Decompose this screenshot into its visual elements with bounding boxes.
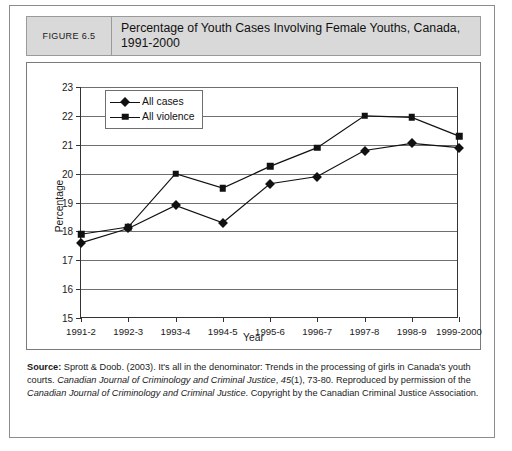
plot-area: 151617181920212223 1991-21992-31993-4199…	[80, 87, 458, 318]
data-point-marker	[220, 185, 227, 192]
y-tick-label: 16	[62, 284, 73, 295]
y-tick-label: 20	[62, 168, 73, 179]
legend-entry: All violence	[110, 109, 195, 124]
data-point-marker	[361, 113, 368, 120]
x-tick-label: 1997-8	[350, 326, 380, 337]
y-tick-label: 18	[62, 226, 73, 237]
figure-header: FIGURE 6.5 Percentage of Youth Cases Inv…	[26, 16, 481, 56]
x-tick-label: 1993-4	[161, 326, 191, 337]
y-tick-label: 22	[62, 110, 73, 121]
x-tick-label: 1999-2000	[436, 326, 482, 337]
x-tick-label: 1996-7	[302, 326, 332, 337]
data-point-marker	[456, 133, 463, 140]
series-line-0	[81, 143, 459, 243]
chart-legend: All casesAll violence	[105, 90, 203, 129]
figure-number-cell: FIGURE 6.5	[27, 17, 112, 55]
x-tick-label: 1994-5	[208, 326, 238, 337]
diamond-marker-icon	[120, 97, 130, 107]
legend-swatch	[110, 96, 140, 108]
figure-title: Percentage of Youth Cases Involving Fema…	[121, 21, 471, 52]
source-text-part3: (1), 73-80. Reproduced by permission of …	[291, 375, 471, 385]
legend-entry: All cases	[110, 94, 195, 109]
x-tick-label: 1998-9	[397, 326, 427, 337]
source-volume: 45	[281, 375, 291, 385]
source-text-part4: . Copyright by the Canadian Criminal Jus…	[246, 388, 479, 398]
legend-swatch	[110, 111, 140, 123]
source-journal-1: Canadian Journal of Criminology and Crim…	[57, 375, 276, 385]
series-line-1	[81, 116, 459, 234]
y-tick-label: 17	[62, 255, 73, 266]
data-point-marker	[267, 163, 274, 170]
source-note: Source: Sprott & Doob. (2003). It's all …	[27, 361, 485, 401]
legend-label: All violence	[142, 111, 195, 122]
data-point-marker	[314, 144, 321, 151]
y-tick-label: 15	[62, 313, 73, 324]
data-point-marker	[172, 170, 179, 177]
legend-label: All cases	[142, 96, 184, 107]
data-point-marker	[409, 114, 416, 121]
chart-container: Percentage Year 151617181920212223 1991-…	[26, 62, 481, 350]
source-journal-2: Canadian Journal of Criminology and Crim…	[27, 388, 246, 398]
x-tick-mark	[459, 317, 460, 322]
data-point-marker	[125, 224, 132, 231]
square-marker-icon	[122, 113, 129, 120]
x-tick-label: 1995-6	[255, 326, 285, 337]
y-tick-label: 21	[62, 139, 73, 150]
y-tick-label: 23	[62, 82, 73, 93]
figure-frame: FIGURE 6.5 Percentage of Youth Cases Inv…	[9, 5, 495, 438]
y-tick-label: 19	[62, 197, 73, 208]
x-tick-label: 1991-2	[66, 326, 96, 337]
data-point-marker	[78, 231, 85, 238]
figure-number-label: FIGURE 6.5	[42, 31, 95, 41]
figure-title-cell: Percentage of Youth Cases Involving Fema…	[112, 17, 480, 55]
x-tick-label: 1992-3	[113, 326, 143, 337]
source-label: Source:	[27, 362, 61, 372]
